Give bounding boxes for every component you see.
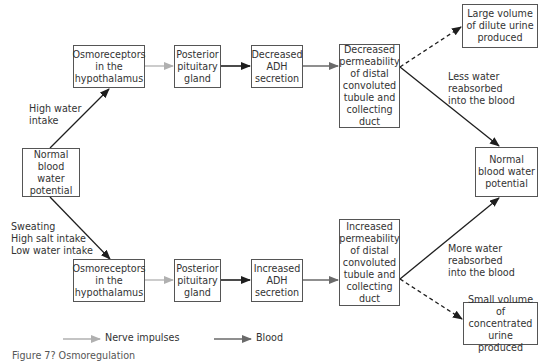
legend-nerve-impulses: Nerve impulses xyxy=(105,332,179,343)
box-normal-blood-water-potential-left: Normal blood water potential xyxy=(22,148,80,197)
legend-blood: Blood xyxy=(256,332,283,343)
box-normal-blood-water-potential-right: Normal blood water potential xyxy=(475,147,538,197)
box-osmoreceptors-bottom: Osmoreceptors in the hypothalamus xyxy=(73,259,145,302)
box-decreased-permeability: Decreased permeability of distal convolu… xyxy=(339,44,400,128)
box-increased-permeability: Increased permeability of distal convolu… xyxy=(339,219,400,306)
box-posterior-pituitary-bottom: Posterior pituitary gland xyxy=(174,259,221,302)
box-posterior-pituitary-top: Posterior pituitary gland xyxy=(174,45,221,88)
box-osmoreceptors-top: Osmoreceptors in the hypothalamus xyxy=(73,45,145,88)
label-high-water-intake: High water intake xyxy=(29,103,81,127)
box-decreased-adh: Decreased ADH secretion xyxy=(251,45,303,88)
figure-caption: Figure 7? Osmoregulation xyxy=(12,350,135,361)
label-more-water-reabsorbed: More water reabsorbed into the blood xyxy=(448,243,515,279)
box-small-volume-concentrated-urine: Small volume of concentrated urine produ… xyxy=(463,302,538,345)
box-large-volume-dilute-urine: Large volume of dilute urine produced xyxy=(462,4,538,48)
box-increased-adh: Increased ADH secretion xyxy=(251,259,303,302)
label-dehydration-causes: Sweating High salt intake Low water inta… xyxy=(11,221,93,257)
label-less-water-reabsorbed: Less water reabsorbed into the blood xyxy=(448,71,515,107)
